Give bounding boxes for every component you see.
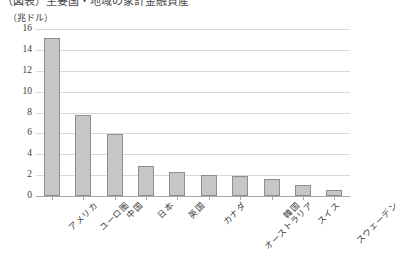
- x-axis-tick: [334, 196, 335, 200]
- y-axis-tick-label: 10: [2, 87, 32, 97]
- bar: [201, 175, 217, 196]
- gridline: [36, 71, 350, 72]
- y-axis-tick-label: 14: [2, 45, 32, 55]
- x-axis-tick: [146, 196, 147, 200]
- bar: [75, 115, 91, 196]
- y-axis-tick-label: 4: [2, 150, 32, 160]
- x-axis-tick: [303, 196, 304, 200]
- gridline: [36, 113, 350, 114]
- y-axis-tick-label: 0: [2, 191, 32, 201]
- gridline: [36, 92, 350, 93]
- gridline: [36, 29, 350, 30]
- x-axis-tick: [83, 196, 84, 200]
- x-axis-category-label: アメリカ: [67, 201, 98, 232]
- x-axis-category-label: 日本: [156, 201, 175, 220]
- x-axis-tick: [240, 196, 241, 200]
- y-axis-tick-label: 12: [2, 66, 32, 76]
- x-axis-category-label: スウェーデン: [355, 201, 399, 245]
- y-axis-tick-label: 16: [2, 24, 32, 34]
- bar: [232, 176, 248, 196]
- y-axis-tick-label: 6: [2, 129, 32, 139]
- x-axis-tick: [209, 196, 210, 200]
- x-axis-category-label: 英国: [188, 201, 207, 220]
- plot-area: [36, 29, 350, 196]
- y-axis-tick-labels: 0246810121416: [0, 29, 32, 196]
- bar: [138, 166, 154, 196]
- x-axis-tick: [115, 196, 116, 200]
- bar: [295, 185, 311, 196]
- y-axis-tick-label: 2: [2, 170, 32, 180]
- x-axis-tick: [272, 196, 273, 200]
- x-axis-category-label: ユーロ圏: [99, 201, 130, 232]
- y-axis-tick-label: 8: [2, 108, 32, 118]
- bar: [44, 38, 60, 196]
- x-axis-category-label: スイス: [316, 201, 341, 226]
- gridline: [36, 50, 350, 51]
- x-axis-tick: [52, 196, 53, 200]
- x-axis-category-label: カナダ: [222, 201, 247, 226]
- bar: [169, 172, 185, 196]
- x-axis-tick: [177, 196, 178, 200]
- bar: [107, 134, 123, 196]
- bar: [264, 179, 280, 196]
